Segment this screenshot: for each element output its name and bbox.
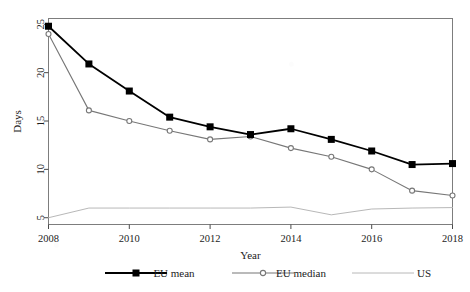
legend-label-eu-mean[interactable]: EU mean	[153, 267, 195, 279]
data-point-eu-mean	[409, 161, 416, 168]
data-point-eu-mean	[85, 60, 92, 67]
data-point-eu-mean	[368, 147, 375, 154]
x-axis-title: Year	[240, 249, 261, 261]
data-point-eu-median	[369, 167, 374, 172]
data-point-eu-median	[450, 193, 455, 198]
data-point-eu-median	[86, 108, 91, 113]
data-point-eu-mean	[247, 131, 254, 138]
data-point-eu-median	[127, 119, 132, 124]
legend-label-us[interactable]: US	[417, 267, 431, 279]
legend-label-eu-median[interactable]: EU median	[276, 267, 326, 279]
series-line-eu-mean	[49, 26, 453, 164]
data-point-eu-median	[410, 188, 415, 193]
y-tick-label: 10	[35, 164, 46, 175]
y-tick-label: 15	[35, 116, 46, 127]
line-chart: 200820102012201420162018510152025YearDay…	[0, 0, 470, 292]
series-line-us	[49, 207, 453, 218]
legend-swatch-eu-mean-marker[interactable]	[133, 270, 140, 277]
series-line-eu-median	[49, 34, 453, 196]
data-point-eu-median	[329, 154, 334, 159]
data-point-eu-mean	[287, 125, 294, 132]
plot-frame	[49, 19, 453, 225]
y-tick-label: 20	[35, 67, 46, 78]
x-tick-label: 2014	[280, 233, 302, 244]
data-point-eu-mean	[126, 88, 133, 95]
data-point-eu-median	[208, 137, 213, 142]
data-point-eu-mean	[166, 114, 173, 121]
data-point-eu-mean	[328, 136, 335, 143]
x-tick-label: 2012	[200, 233, 221, 244]
x-tick-label: 2008	[38, 233, 59, 244]
data-point-eu-mean	[207, 123, 214, 130]
x-tick-label: 2016	[361, 233, 382, 244]
chart-figure: 200820102012201420162018510152025YearDay…	[0, 0, 470, 292]
y-tick-label: 5	[35, 215, 46, 220]
data-point-eu-mean	[45, 23, 52, 30]
data-point-eu-mean	[449, 160, 456, 167]
data-point-eu-median	[288, 146, 293, 151]
y-tick-label: 25	[35, 19, 46, 30]
data-point-eu-median	[46, 31, 51, 36]
y-axis-title: Days	[11, 110, 23, 133]
data-point-eu-median	[167, 128, 172, 133]
x-tick-label: 2010	[119, 233, 140, 244]
x-tick-label: 2018	[442, 233, 463, 244]
legend-swatch-eu-median-marker[interactable]	[260, 270, 265, 275]
